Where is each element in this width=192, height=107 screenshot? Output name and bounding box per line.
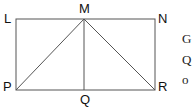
side-text-line-2: Q bbox=[182, 53, 191, 66]
side-text-line-3: o bbox=[182, 73, 189, 86]
side-text-line-1: G bbox=[182, 32, 191, 45]
point-label-n: N bbox=[158, 12, 167, 25]
segment-mr bbox=[84, 19, 155, 90]
point-label-m: M bbox=[79, 2, 90, 15]
point-label-l: L bbox=[4, 12, 11, 25]
point-label-p: P bbox=[3, 80, 12, 93]
segment-mp bbox=[16, 19, 84, 90]
point-label-r: R bbox=[158, 80, 167, 93]
rectangle-lnrp bbox=[16, 19, 155, 90]
point-label-q: Q bbox=[80, 93, 90, 106]
